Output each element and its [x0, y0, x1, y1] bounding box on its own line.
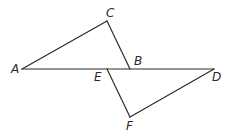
label-B: B: [134, 54, 142, 68]
segment-FD: [130, 69, 214, 117]
geometry-diagram: A B C D E F: [0, 0, 234, 134]
label-A: A: [10, 62, 19, 76]
label-D: D: [212, 70, 221, 84]
segment-AC: [22, 21, 107, 69]
segment-CB: [107, 21, 130, 69]
label-C: C: [106, 6, 115, 20]
label-F: F: [126, 119, 134, 133]
label-E: E: [94, 70, 102, 84]
segment-EF: [107, 69, 130, 117]
